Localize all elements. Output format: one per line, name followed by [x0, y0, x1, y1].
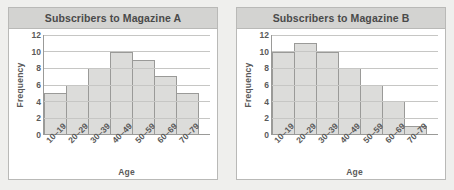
histogram-magazine-b: Frequency 024681012 10–1920–2930–3940–49…: [241, 35, 438, 177]
x-tick: 40–49: [337, 135, 359, 169]
gridline: [272, 101, 438, 102]
y-tick-label: 12: [260, 31, 269, 40]
y-axis-label-magazine-b: Frequency: [241, 35, 254, 135]
histogram-bar: [316, 52, 339, 135]
y-axis-ticks-magazine-b: 024681012: [254, 35, 271, 135]
y-tick-label: 10: [260, 47, 269, 56]
chart-panel-magazine-a: Subscribers to Magazine A Frequency 0246…: [8, 7, 218, 180]
y-tick-label: 2: [264, 114, 269, 123]
x-tick: 60–69: [154, 135, 176, 169]
x-tick: 50–59: [132, 135, 154, 169]
page-root: Subscribers to Magazine A Frequency 0246…: [0, 0, 454, 190]
y-axis-label-text: Frequency: [15, 63, 25, 108]
gridline: [272, 118, 438, 119]
y-axis-ticks-magazine-a: 024681012: [26, 35, 43, 135]
y-tick-label: 12: [32, 31, 41, 40]
y-axis-label-magazine-a: Frequency: [13, 35, 26, 135]
y-tick-label: 6: [264, 81, 269, 90]
gridline: [44, 118, 210, 119]
y-tick-label: 2: [36, 114, 41, 123]
x-tick: 20–29: [65, 135, 87, 169]
x-tick: 40–49: [109, 135, 131, 169]
histogram-bar: [110, 52, 133, 135]
x-tick: 70–79: [404, 135, 426, 169]
y-tick-label: 10: [32, 47, 41, 56]
x-axis-ticks-magazine-b: 10–1920–2930–3940–4950–5960–6970–79: [271, 135, 438, 169]
x-tick: 20–29: [293, 135, 315, 169]
gridline: [272, 68, 438, 69]
histogram-bar: [294, 43, 317, 134]
panel-title-magazine-a: Subscribers to Magazine A: [9, 8, 217, 29]
x-tick: 50–59: [360, 135, 382, 169]
gridline: [272, 51, 438, 52]
y-tick-label: 8: [264, 64, 269, 73]
plot-region-magazine-b: Frequency 024681012: [241, 35, 438, 135]
x-tick: 10–19: [271, 135, 293, 169]
histogram-magazine-a: Frequency 024681012 10–1920–2930–3940–49…: [13, 35, 210, 177]
gridline: [44, 68, 210, 69]
histogram-bar: [272, 52, 295, 135]
x-tick: 70–79: [176, 135, 198, 169]
y-tick-label: 4: [36, 97, 41, 106]
gridline: [44, 51, 210, 52]
x-tick: 10–19: [43, 135, 65, 169]
x-axis-ticks-magazine-a: 10–1920–2930–3940–4950–5960–6970–79: [43, 135, 210, 169]
gridline: [44, 85, 210, 86]
gridline: [44, 101, 210, 102]
x-tick: 60–69: [382, 135, 404, 169]
panel-body-magazine-a: Frequency 024681012 10–1920–2930–3940–49…: [9, 29, 217, 181]
y-tick-label: 0: [264, 131, 269, 140]
x-tick: 30–39: [87, 135, 109, 169]
y-tick-label: 8: [36, 64, 41, 73]
gridline: [272, 85, 438, 86]
y-tick-label: 0: [36, 131, 41, 140]
x-tick: 30–39: [315, 135, 337, 169]
panel-body-magazine-b: Frequency 024681012 10–1920–2930–3940–49…: [237, 29, 445, 181]
y-tick-label: 4: [264, 97, 269, 106]
gridline: [272, 35, 438, 36]
gridline: [44, 35, 210, 36]
plot-region-magazine-a: Frequency 024681012: [13, 35, 210, 135]
y-axis-label-text: Frequency: [243, 63, 253, 108]
y-tick-label: 6: [36, 81, 41, 90]
chart-panel-magazine-b: Subscribers to Magazine B Frequency 0246…: [236, 7, 446, 180]
panel-title-magazine-b: Subscribers to Magazine B: [237, 8, 445, 29]
